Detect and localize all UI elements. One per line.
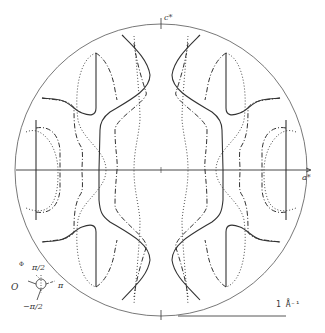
phase-left-label: O [11,282,18,292]
phase-right-label: π [58,281,63,290]
solid-contour [42,53,96,115]
c-star-axis-label: c* [164,13,172,22]
dashed-contour [96,240,117,287]
phase-contour-figure [0,0,325,333]
phase-symbol: Φ [19,260,24,267]
contour-half-right [172,35,296,304]
scale-bar-label: 1 Å⁻¹ [276,300,300,309]
dotted-contour [26,131,58,211]
a-star-axis-label: a* [302,173,311,182]
phase-bottom-label: −π/2 [23,302,43,311]
phase-top-label: π/2 [32,263,45,272]
solid-contour [42,225,96,287]
phase-legend-icon [28,275,55,300]
dashed-contour [96,53,117,100]
